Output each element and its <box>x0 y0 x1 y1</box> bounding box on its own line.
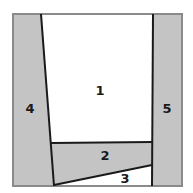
label-piece-5: 5 <box>162 101 171 116</box>
seam-1-2 <box>51 142 152 143</box>
label-piece-3: 3 <box>120 171 129 186</box>
piece-5 <box>152 14 182 186</box>
seam-1-5 <box>152 14 153 186</box>
label-piece-2: 2 <box>100 148 109 163</box>
piece-1 <box>41 14 153 143</box>
piecing-diagram: 1 2 3 4 5 <box>0 0 193 193</box>
label-piece-4: 4 <box>25 101 34 116</box>
label-piece-1: 1 <box>95 83 104 98</box>
